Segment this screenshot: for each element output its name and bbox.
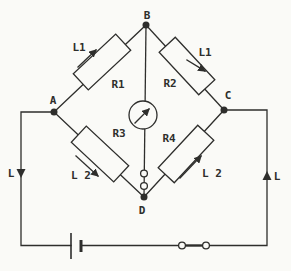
l2-right-label: L 2 [202,167,222,180]
resistor-r3-label: R3 [112,127,125,140]
node-a-dot [51,109,58,116]
current-left-label: L [8,167,15,180]
switch-terminal-right [203,242,210,249]
resistor-r1-label: R1 [111,78,125,91]
node-a-label: A [50,94,57,107]
l1-left-label: L1 [72,41,86,54]
switch-terminal-left [179,242,186,249]
node-b-dot [143,22,150,29]
wheatstone-bridge-svg: B A C D R1 R2 R3 R4 L1 L1 L 2 L 2 L L [0,0,291,271]
current-right-label: L [274,170,281,183]
terminal-lower [141,183,148,190]
node-c-dot [221,107,228,114]
terminal-upper [141,170,148,177]
l2-left-label: L 2 [71,169,91,182]
node-c-label: C [225,89,232,102]
circuit-diagram: B A C D R1 R2 R3 R4 L1 L1 L 2 L 2 L L [0,0,291,271]
resistor-r4-label: R4 [162,132,176,145]
node-d-dot [141,194,148,201]
current-arrow-left-down-icon [17,169,26,178]
node-b-label: B [144,9,151,22]
galvanometer [129,101,157,129]
switch [179,242,210,249]
node-d-label: D [139,204,146,217]
wire-left-loop [21,112,71,246]
battery [71,233,81,259]
l1-right-label: L1 [198,46,212,59]
resistor-r2-label: R2 [163,77,176,90]
current-arrow-right-up-icon [263,171,272,180]
